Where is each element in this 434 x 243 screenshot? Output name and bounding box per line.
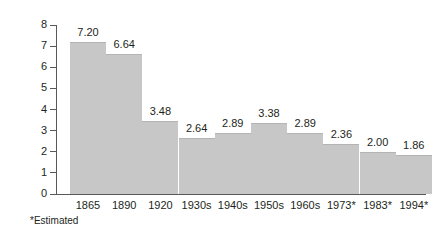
bar-group[interactable]: 2.00 xyxy=(360,25,396,194)
y-axis-tick xyxy=(50,46,57,47)
y-axis-tick xyxy=(50,151,57,152)
y-axis-tick-label: 0 xyxy=(25,188,47,199)
footnote-estimated: *Estimated xyxy=(30,215,78,226)
bar-value-label: 2.89 xyxy=(281,118,329,129)
bar-rect[interactable] xyxy=(179,138,215,194)
bar-group[interactable]: 3.48 xyxy=(142,25,178,194)
bar-value-label: 7.20 xyxy=(64,27,112,38)
y-axis-tick xyxy=(50,194,57,195)
bar-rect[interactable] xyxy=(287,133,323,194)
y-axis-tick xyxy=(50,88,57,89)
bar-value-label: 6.64 xyxy=(100,39,148,50)
y-axis-tick-label: 1 xyxy=(25,167,47,178)
y-axis-tick-label: 7 xyxy=(25,40,47,51)
y-axis-tick xyxy=(50,130,57,131)
y-axis-tick-label: 8 xyxy=(25,19,47,30)
bar-value-label: 3.38 xyxy=(245,108,293,119)
y-axis-tick xyxy=(50,25,57,26)
bar-group[interactable]: 2.36 xyxy=(323,25,359,194)
y-axis-tick xyxy=(50,172,57,173)
bar-group[interactable]: 1.86 xyxy=(396,25,432,194)
y-axis-tick xyxy=(50,67,57,68)
bar-rect[interactable] xyxy=(396,155,432,194)
plot-area: 7.206.643.482.642.893.382.892.362.001.86 xyxy=(57,25,426,194)
y-axis-tick-label: 2 xyxy=(25,146,47,157)
y-axis-tick xyxy=(50,109,57,110)
x-axis-line xyxy=(57,194,426,195)
bar-group[interactable]: 3.38 xyxy=(251,25,287,194)
y-axis-tick-label: 5 xyxy=(25,82,47,93)
bar-group[interactable]: 2.64 xyxy=(179,25,215,194)
bar-group[interactable]: 2.89 xyxy=(287,25,323,194)
bar-rect[interactable] xyxy=(106,54,142,194)
bar-rect[interactable] xyxy=(251,123,287,194)
y-axis-tick-label: 3 xyxy=(25,125,47,136)
y-axis-tick-label: 6 xyxy=(25,61,47,72)
bar-rect[interactable] xyxy=(215,133,251,194)
bar-rect[interactable] xyxy=(323,144,359,194)
bar-value-label: 1.86 xyxy=(390,140,434,151)
bar-group[interactable]: 7.20 xyxy=(70,25,106,194)
bar-chart-figure: 012345678 7.206.643.482.642.893.382.892.… xyxy=(0,0,434,243)
y-axis-tick-label: 4 xyxy=(25,104,47,115)
bar-rect[interactable] xyxy=(360,152,396,194)
x-axis-label: 1994* xyxy=(390,199,434,211)
bar-value-label: 3.48 xyxy=(136,106,184,117)
bar-series: 7.206.643.482.642.893.382.892.362.001.86 xyxy=(57,25,426,194)
bar-rect[interactable] xyxy=(70,42,106,194)
bar-value-label: 2.89 xyxy=(209,118,257,129)
